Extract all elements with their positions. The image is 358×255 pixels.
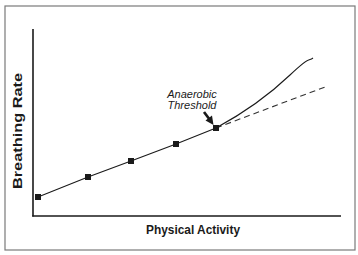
data-marker	[173, 141, 179, 147]
data-marker	[85, 174, 91, 180]
threshold-marker	[213, 125, 219, 131]
x-axis-label: Physical Activity	[146, 222, 241, 237]
y-axis-label: Breathing Rate	[10, 73, 25, 189]
figure: Anaerobic Threshold Physical Activity Br…	[0, 0, 358, 255]
data-marker	[128, 158, 134, 164]
data-marker	[35, 194, 41, 200]
annotation-line2: Threshold	[168, 99, 218, 111]
breathing-rate-chart: Anaerobic Threshold Physical Activity Br…	[0, 0, 358, 255]
figure-frame	[5, 6, 355, 250]
